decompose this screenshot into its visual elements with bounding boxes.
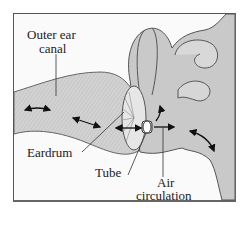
outer-ear-canal-label-line1: Outer ear [27,28,76,41]
eardrum-label: Eardrum [27,146,72,159]
tube-label: Tube [95,166,121,179]
outer-ear-canal-label-line2: canal [39,42,66,55]
air-circulation-label-line2: circulation [136,189,192,202]
ear-canal-shape [14,72,140,154]
